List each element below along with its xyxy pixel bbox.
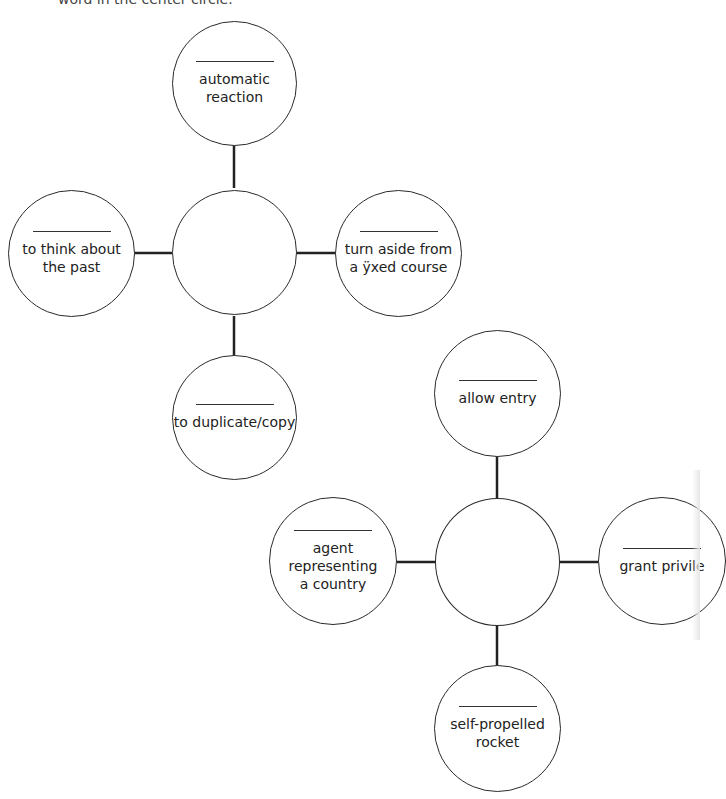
clue-text: to think about the past	[22, 240, 121, 276]
clue-text: automatic reaction	[199, 70, 270, 106]
answer-blank[interactable]	[33, 231, 111, 232]
answer-blank[interactable]	[196, 404, 274, 405]
clue-text: allow entry	[459, 389, 537, 407]
spoke-circle-top: automatic reaction	[172, 21, 297, 146]
spoke-circle-bottom: self-propelled rocket	[434, 665, 561, 792]
answer-blank[interactable]	[459, 380, 537, 381]
spoke-circle-top: allow entry	[434, 330, 561, 457]
answer-blank[interactable]	[623, 548, 701, 549]
answer-blank[interactable]	[196, 61, 274, 62]
spoke-circle-bottom: to duplicate/copy	[172, 355, 297, 480]
spoke-circle-right: turn aside from a ÿxed course	[335, 190, 462, 317]
clue-text: to duplicate/copy	[174, 413, 295, 431]
clue-text: self-propelled rocket	[450, 715, 545, 751]
spoke-circle-right: grant privile	[598, 497, 726, 625]
center-circle[interactable]	[435, 498, 560, 626]
page-edge-shadow	[692, 470, 700, 640]
center-circle[interactable]	[172, 190, 297, 315]
answer-blank[interactable]	[294, 530, 372, 531]
clue-text: agent representing a country	[270, 539, 396, 593]
spoke-circle-left: to think about the past	[8, 190, 135, 317]
clue-text: turn aside from a ÿxed course	[345, 240, 453, 276]
spoke-circle-left: agent representing a country	[269, 497, 397, 625]
answer-blank[interactable]	[360, 231, 438, 232]
answer-blank[interactable]	[459, 706, 537, 707]
